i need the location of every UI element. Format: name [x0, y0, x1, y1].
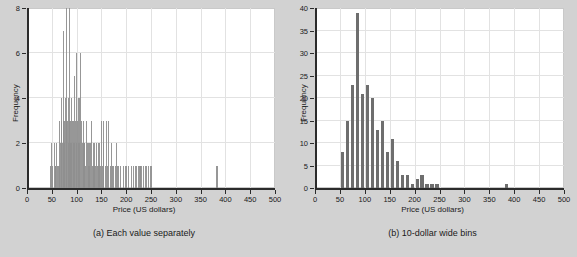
histogram-bar: [381, 121, 384, 189]
x-tick: [315, 190, 316, 194]
x-tick-label: 400: [508, 195, 521, 204]
x-tick: [415, 190, 416, 194]
y-tick: [310, 166, 314, 167]
histogram-spike: [120, 166, 121, 189]
x-tick-label: 250: [433, 195, 446, 204]
x-tick-label: 500: [558, 195, 571, 204]
y-tick-label: 8: [3, 4, 20, 13]
x-axis-label-b: Price (US dollars): [288, 205, 577, 214]
histogram-spike: [148, 166, 149, 189]
y-axis-label-b: Frequency: [299, 84, 308, 122]
x-tick: [126, 190, 127, 194]
x-tick-label: 50: [48, 195, 56, 204]
plot-area-b: [315, 8, 564, 188]
x-tick-label: 250: [145, 195, 158, 204]
x-tick-label: 0: [25, 195, 29, 204]
x-tick-label: 0: [313, 195, 317, 204]
histogram-bar: [396, 161, 399, 188]
histogram-spike: [128, 166, 129, 189]
x-tick: [250, 190, 251, 194]
x-tick-label: 150: [383, 195, 396, 204]
histogram-bar: [346, 121, 349, 189]
y-tick-label: 5: [291, 161, 308, 170]
histogram-spike: [140, 166, 141, 189]
plot-area-a: [27, 8, 275, 188]
x-tick: [27, 190, 28, 194]
x-tick-label: 300: [458, 195, 471, 204]
x-tick: [564, 190, 565, 194]
x-tick-label: 100: [70, 195, 83, 204]
histogram-bar: [420, 175, 423, 189]
y-tick: [22, 143, 26, 144]
x-tick: [489, 190, 490, 194]
y-tick: [22, 8, 26, 9]
x-tick: [390, 190, 391, 194]
histogram-bar: [341, 152, 344, 188]
x-tick-label: 200: [408, 195, 421, 204]
x-tick: [77, 190, 78, 194]
y-axis-label-a: Frequency: [11, 84, 20, 122]
x-tick: [225, 190, 226, 194]
histogram-figure: 05010015020025030035040045050002468 Pric…: [0, 0, 577, 257]
histogram-bar: [366, 85, 369, 189]
bars-a: [27, 8, 275, 188]
y-tick: [310, 188, 314, 189]
histogram-bar: [406, 175, 409, 189]
y-tick: [310, 76, 314, 77]
x-tick-label: 300: [170, 195, 183, 204]
panel-a: 05010015020025030035040045050002468 Pric…: [0, 0, 288, 257]
y-tick-label: 0: [3, 184, 20, 193]
x-tick: [176, 190, 177, 194]
histogram-bar: [376, 130, 379, 189]
histogram-bar: [356, 13, 359, 189]
x-tick-label: 350: [194, 195, 207, 204]
y-tick: [310, 121, 314, 122]
y-axis-line: [27, 8, 29, 188]
x-tick-label: 100: [359, 195, 372, 204]
y-tick: [22, 98, 26, 99]
y-tick: [22, 188, 26, 189]
x-tick: [52, 190, 53, 194]
histogram-bar: [416, 179, 419, 188]
x-tick-label: 450: [244, 195, 257, 204]
x-tick: [340, 190, 341, 194]
histogram-bar: [401, 175, 404, 189]
y-tick-label: 0: [291, 184, 308, 193]
y-tick-label: 6: [3, 49, 20, 58]
x-tick-label: 400: [219, 195, 232, 204]
x-tick: [101, 190, 102, 194]
x-tick: [440, 190, 441, 194]
x-tick-label: 50: [336, 195, 344, 204]
histogram-spike: [143, 166, 144, 189]
y-tick: [310, 53, 314, 54]
x-tick: [539, 190, 540, 194]
caption-b: (b) 10-dollar wide bins: [288, 228, 577, 238]
x-tick-label: 150: [95, 195, 108, 204]
bars-b: [315, 8, 564, 188]
y-tick: [310, 8, 314, 9]
x-tick: [514, 190, 515, 194]
y-tick-label: 30: [291, 49, 308, 58]
y-tick-label: 40: [291, 4, 308, 13]
histogram-spike: [126, 166, 127, 189]
y-tick: [310, 143, 314, 144]
y-tick-label: 25: [291, 71, 308, 80]
x-tick: [275, 190, 276, 194]
histogram-spike: [136, 166, 137, 189]
histogram-spike: [145, 166, 146, 189]
x-tick-label: 500: [269, 195, 282, 204]
y-tick-label: 2: [3, 139, 20, 148]
caption-a: (a) Each value separately: [0, 228, 288, 238]
y-axis-line: [315, 8, 317, 188]
panel-b: 0501001502002503003504004505000510152025…: [288, 0, 577, 257]
y-tick-label: 10: [291, 139, 308, 148]
histogram-spike: [131, 166, 132, 189]
x-tick-label: 200: [120, 195, 133, 204]
x-tick: [201, 190, 202, 194]
histogram-bar: [361, 94, 364, 189]
histogram-bar: [351, 85, 354, 189]
x-tick-label: 450: [533, 195, 546, 204]
histogram-bar: [371, 98, 374, 188]
histogram-spike: [216, 166, 217, 189]
x-tick: [464, 190, 465, 194]
